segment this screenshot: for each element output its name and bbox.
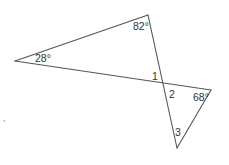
geometry-diagram: 82° 28° 1 2 68° 3 ,: [0, 0, 229, 165]
transversal-left-to-right: [15, 61, 211, 90]
angle-label-68: 68°: [193, 91, 209, 103]
angle-label-82: 82°: [133, 20, 149, 32]
angle-label-2: 2: [169, 88, 175, 100]
stray-mark: ,: [3, 113, 6, 123]
angle-label-1: 1: [152, 70, 158, 82]
angle-label-28: 28°: [35, 52, 51, 64]
angle-label-3: 3: [175, 126, 181, 138]
